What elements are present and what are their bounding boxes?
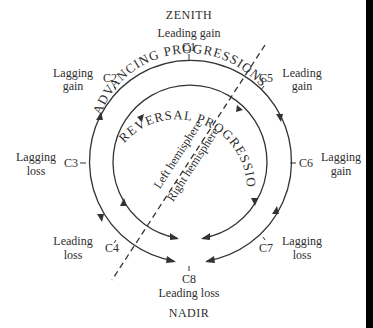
arrow-inner-left-up-icon bbox=[120, 198, 127, 206]
zenith-label: ZENITH bbox=[166, 8, 212, 22]
c5-desc-2: gain bbox=[292, 79, 313, 93]
arrow-inner-right-down-icon bbox=[251, 198, 258, 206]
c4-desc-2: loss bbox=[64, 248, 83, 262]
nadir-label: NADIR bbox=[169, 306, 210, 320]
arrow-outer-right-end-icon bbox=[205, 256, 215, 263]
edge-bar bbox=[366, 0, 373, 328]
cycle-diagram: ZENITH NADIR Leading gain C1 C8 Leading … bbox=[0, 0, 373, 328]
c2-desc-2: gain bbox=[63, 79, 84, 93]
c3-label: C3 bbox=[64, 156, 78, 170]
arrow-outer-right-down-icon bbox=[276, 114, 283, 122]
arrow-outer-left-down-icon bbox=[97, 214, 104, 222]
outer-ring-title-path: ADVANCING PROGRESSIONS bbox=[89, 41, 271, 116]
c6-label: C6 bbox=[299, 156, 313, 170]
c8-desc: Leading loss bbox=[159, 286, 220, 300]
arrow-inner-left-end-icon bbox=[170, 233, 179, 240]
c8-label: C8 bbox=[182, 272, 196, 286]
outer-ring-title: ADVANCING PROGRESSIONS bbox=[89, 41, 271, 116]
c7-desc-1: Lagging bbox=[282, 234, 322, 248]
c3-desc-2: loss bbox=[27, 164, 46, 178]
c7-tick bbox=[263, 237, 265, 240]
c4-label: C4 bbox=[105, 241, 119, 255]
c7-label: C7 bbox=[259, 241, 273, 255]
c6-desc-1: Lagging bbox=[321, 150, 361, 164]
c7-desc-2: loss bbox=[293, 248, 312, 262]
c5-desc-1: Leading bbox=[282, 66, 321, 80]
c4-desc-1: Leading bbox=[53, 234, 92, 248]
c6-desc-2: gain bbox=[331, 164, 352, 178]
c1-desc: Leading gain bbox=[158, 26, 221, 40]
c3-desc-1: Lagging bbox=[16, 150, 56, 164]
arrow-outer-right-up-icon bbox=[272, 206, 279, 214]
arrow-inner-right-end-icon bbox=[201, 233, 210, 240]
arrow-outer-left-end-icon bbox=[166, 256, 176, 263]
c2-desc-1: Lagging bbox=[53, 66, 93, 80]
